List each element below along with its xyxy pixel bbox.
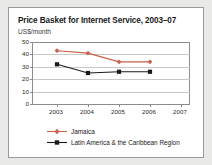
x-tick-label-2007: 2007: [173, 108, 187, 115]
plot-area: [32, 42, 190, 105]
chart-panel: Price Basket for Internet Service, 2003–…: [8, 7, 204, 158]
data-point-marker-1-0: [55, 62, 59, 66]
data-point-marker-0-1: [86, 51, 91, 56]
x-tick-mark-2003: [57, 104, 58, 107]
y-tick-label-40: 40: [22, 51, 29, 57]
chart-title: Price Basket for Internet Service, 2003–…: [18, 16, 196, 26]
legend-item-lac-region[interactable]: Latin America & the Caribbean Region: [9, 137, 205, 148]
y-tick-label-30: 30: [22, 64, 29, 70]
data-point-marker-0-0: [55, 48, 60, 53]
figure-outer-background: Price Basket for Internet Service, 2003–…: [0, 0, 212, 165]
x-tick-label-2004: 2004: [80, 108, 94, 115]
x-tick-label-2005: 2005: [111, 108, 125, 115]
data-series-layer: [33, 42, 190, 104]
x-tick-label-2003: 2003: [49, 108, 63, 115]
x-tick-mark-2006: [150, 104, 151, 107]
y-tick-label-10: 10: [22, 89, 29, 95]
data-point-marker-1-3: [148, 70, 152, 74]
legend-item-jamaica[interactable]: Jamaica: [9, 126, 205, 137]
x-tick-mark-2007: [181, 104, 182, 107]
y-tick-mark-0: [30, 104, 33, 105]
plot-wrapper: 50 40 30 20 10 0: [9, 36, 205, 120]
x-axis-tick-labels: 2003 2004 2005 2006 2007: [32, 108, 190, 118]
y-tick-label-50: 50: [22, 39, 29, 45]
chart-legend: Jamaica Latin America & the Caribbean Re…: [9, 126, 205, 148]
data-point-marker-0-2: [117, 59, 122, 64]
y-tick-label-0: 0: [26, 101, 29, 107]
legend-marker-diamond-icon: [47, 127, 67, 136]
x-tick-mark-2005: [119, 104, 120, 107]
x-tick-mark-2004: [88, 104, 89, 107]
y-axis-tick-labels: 50 40 30 20 10 0: [9, 36, 31, 120]
data-point-marker-1-1: [86, 71, 90, 75]
y-tick-label-20: 20: [22, 76, 29, 82]
data-point-marker-1-2: [117, 70, 121, 74]
legend-marker-square-icon: [47, 138, 67, 147]
x-tick-label-2006: 2006: [142, 108, 156, 115]
series-line-1: [57, 64, 150, 73]
series-line-0: [57, 51, 150, 62]
data-point-marker-0-3: [148, 59, 153, 64]
chart-axis-unit-label: US$/month: [18, 28, 51, 36]
